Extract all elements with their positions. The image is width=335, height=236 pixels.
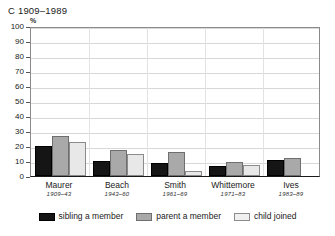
x-axis-category-name: Smith (146, 180, 204, 190)
y-axis-tick (26, 177, 30, 178)
y-axis-tick (26, 162, 30, 163)
y-axis-label: 80 (0, 53, 24, 61)
group-separator (147, 28, 148, 176)
bar (209, 166, 226, 176)
x-axis-group-label: Whittemore1971–83 (204, 180, 262, 199)
y-axis-unit-label: % (30, 17, 36, 24)
gridline (31, 103, 319, 104)
x-axis-category-years: 1983–89 (262, 190, 320, 199)
bar (243, 165, 260, 176)
x-axis-category-name: Whittemore (204, 180, 262, 190)
bar (151, 163, 168, 177)
bar (110, 150, 127, 176)
chart-title: C 1909–1989 (8, 5, 67, 16)
y-axis-tick (26, 87, 30, 88)
gridline (31, 88, 319, 89)
gridline (31, 133, 319, 134)
x-axis-group-label: Ives1983–89 (262, 180, 320, 199)
group-separator (89, 28, 90, 176)
legend-swatch-icon (39, 213, 55, 221)
y-axis-label: 50 (0, 98, 24, 106)
y-axis-tick (26, 102, 30, 103)
x-axis-group-label: Maurer1909–43 (30, 180, 88, 199)
y-axis-label: 0 (0, 173, 24, 181)
y-axis-label: 100 (0, 23, 24, 31)
y-axis-label: 10 (0, 158, 24, 166)
legend-label: parent a member (156, 212, 221, 221)
legend-item: sibling a member (39, 212, 124, 221)
bar (226, 162, 243, 176)
y-axis-tick (26, 117, 30, 118)
gridline (31, 43, 319, 44)
group-separator (263, 28, 264, 176)
bar (93, 161, 110, 176)
y-axis-label: 60 (0, 83, 24, 91)
x-axis-category-name: Maurer (30, 180, 88, 190)
legend-label: sibling a member (59, 212, 124, 221)
bar (35, 146, 52, 176)
y-axis-tick (26, 132, 30, 133)
plot-area (30, 27, 320, 177)
x-axis-category-years: 1971–83 (204, 190, 262, 199)
y-axis-tick (26, 27, 30, 28)
y-axis-tick (26, 147, 30, 148)
gridline (31, 73, 319, 74)
y-axis-tick (26, 72, 30, 73)
bar (69, 142, 86, 176)
legend-swatch-icon (136, 213, 152, 221)
y-axis-label: 70 (0, 68, 24, 76)
y-axis-tick (26, 57, 30, 58)
bar (267, 160, 284, 177)
chart-legend: sibling a memberparent a memberchild joi… (0, 212, 335, 221)
gridline (31, 58, 319, 59)
x-axis-group-label: Beach1943–60 (88, 180, 146, 199)
bar (52, 136, 69, 177)
y-axis-tick (26, 42, 30, 43)
bar (284, 158, 301, 176)
legend-swatch-icon (234, 213, 250, 221)
legend-label: child joined (254, 212, 297, 221)
x-axis-category-name: Beach (88, 180, 146, 190)
x-axis-group-label: Smith1961–69 (146, 180, 204, 199)
gridline (31, 118, 319, 119)
x-axis-category-name: Ives (262, 180, 320, 190)
gridline (31, 28, 319, 29)
y-axis-label: 20 (0, 143, 24, 151)
bar-chart-figure: C 1909–1989 % 0102030405060708090100 Mau… (0, 0, 335, 236)
legend-item: child joined (234, 212, 297, 221)
bar (168, 152, 185, 176)
y-axis-label: 30 (0, 128, 24, 136)
y-axis-label: 90 (0, 38, 24, 46)
legend-item: parent a member (136, 212, 221, 221)
y-axis-label: 40 (0, 113, 24, 121)
x-axis-category-years: 1909–43 (30, 190, 88, 199)
bar (185, 171, 202, 176)
x-axis-category-years: 1961–69 (146, 190, 204, 199)
x-axis-category-years: 1943–60 (88, 190, 146, 199)
bar (127, 154, 144, 176)
group-separator (205, 28, 206, 176)
